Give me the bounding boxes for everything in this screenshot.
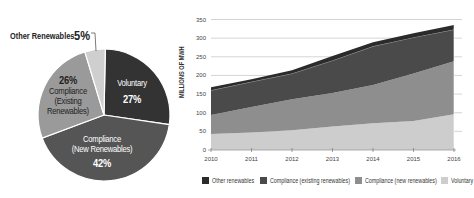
pie-percent-compliance-existing: 26%	[43, 75, 94, 85]
y-tick-label: 50	[199, 128, 206, 134]
y-tick-label: 200	[196, 72, 207, 78]
pie-label-voluntary-text: Voluntary	[117, 78, 147, 88]
area-chart: 0501001502002503003502010201120122013201…	[175, 0, 474, 198]
leader-line	[91, 33, 96, 51]
pie-label-compliance-existing-line1: Compliance	[43, 86, 94, 96]
pie-label-compliance-new-line1: Compliance	[68, 134, 136, 144]
x-tick-label: 2015	[407, 156, 421, 162]
area-chart-graphic: 0501001502002503003502010201120122013201…	[175, 0, 474, 198]
y-axis-label: MILLIONS OF MWH	[178, 46, 185, 98]
x-tick-label: 2016	[447, 156, 461, 162]
pie-percent-compliance-new: 42%	[68, 158, 136, 168]
legend-label-voluntary: Voluntary	[451, 177, 473, 184]
x-tick-label: 2012	[285, 156, 299, 162]
legend-swatch-voluntary	[441, 177, 448, 184]
pie-label-compliance-existing-line3: Renewables)	[43, 106, 94, 116]
legend-item-other-renewables: Other renewables	[202, 177, 263, 184]
pie-label-voluntary: Voluntary 27%	[107, 78, 158, 104]
legend-label-compliance-new: Compliance (new renewables)	[365, 177, 437, 184]
legend-item-compliance-new: Compliance (new renewables)	[355, 177, 452, 184]
y-tick-label: 350	[196, 17, 207, 23]
legend-item-voluntary: Voluntary	[441, 177, 474, 184]
x-tick-label: 2013	[326, 156, 340, 162]
legend-item-compliance-existing: Compliance (existing renewables)	[260, 177, 368, 184]
pie-label-other-renewables: Other Renewables	[10, 31, 74, 41]
legend-swatch-compliance-new	[355, 177, 362, 184]
legend-swatch-compliance-existing	[260, 177, 267, 184]
legend-swatch-other-renewables	[202, 177, 209, 184]
pie-percent-other-renewables: 5%	[74, 28, 90, 43]
legend-label-other-renewables: Other renewables	[212, 177, 254, 184]
legend-label-compliance-existing: Compliance (existing renewables)	[270, 177, 350, 184]
y-tick-label: 300	[196, 35, 207, 41]
y-tick-label: 150	[196, 91, 207, 97]
area-chart-legend: Other renewables Compliance (existing re…	[202, 177, 474, 184]
pie-label-compliance-new: Compliance (New Renewables) 42%	[68, 134, 136, 168]
pie-label-compliance-new-line2: (New Renewables)	[68, 144, 136, 154]
x-tick-label: 2010	[204, 156, 218, 162]
x-tick-label: 2011	[245, 156, 259, 162]
y-tick-label: 100	[196, 110, 207, 116]
pie-label-compliance-existing: 26% Compliance (Existing Renewables)	[43, 75, 94, 116]
pie-label-compliance-existing-line2: (Existing	[43, 96, 94, 106]
y-tick-label: 250	[196, 54, 207, 60]
x-tick-label: 2014	[366, 156, 380, 162]
y-tick-label: 0	[203, 147, 207, 153]
pie-chart: Other Renewables 5% Voluntary 27% Compli…	[0, 0, 180, 198]
pie-percent-voluntary: 27%	[107, 94, 158, 104]
